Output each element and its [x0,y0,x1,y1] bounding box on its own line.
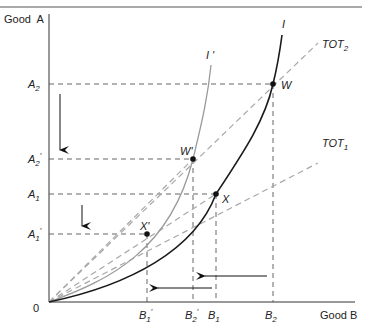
tick-B2-prime: B2′ [185,307,199,324]
trade-diagram: W W' X X' I I ' TOT2 TOT1 Good A Good B … [0,0,370,334]
tot1-prime-ray [49,194,216,302]
tick-B1: B1 [208,309,220,324]
label-TOT1: TOT1 [322,137,348,152]
tot2-ray [49,43,318,302]
offer-curve-I-prime [49,65,211,302]
offer-curve-I [49,35,282,302]
label-W: W [281,79,293,91]
tick-B2: B2 [265,309,277,324]
point-X [213,191,219,197]
point-W [270,81,276,87]
tick-A2: A2 [27,78,40,93]
tot1-ray [49,163,318,302]
tick-A1-prime: A1′ [27,226,42,243]
label-TOT2: TOT2 [322,38,349,53]
label-X-prime: X' [139,220,150,232]
label-curve-I-prime: I ' [206,49,215,61]
point-X-prime [144,231,150,237]
x-axis-label: Good B [320,309,357,321]
tick-B1-prime: B1′ [139,307,153,324]
origin-label: 0 [33,302,39,314]
tick-A1: A1 [27,188,40,203]
label-W-prime: W' [180,145,193,157]
tick-A2-prime: A2′ [27,151,42,168]
point-W-prime [190,156,196,162]
y-axis-label: Good A [4,13,44,25]
label-curve-I: I [282,18,285,30]
label-X: X [221,193,230,205]
